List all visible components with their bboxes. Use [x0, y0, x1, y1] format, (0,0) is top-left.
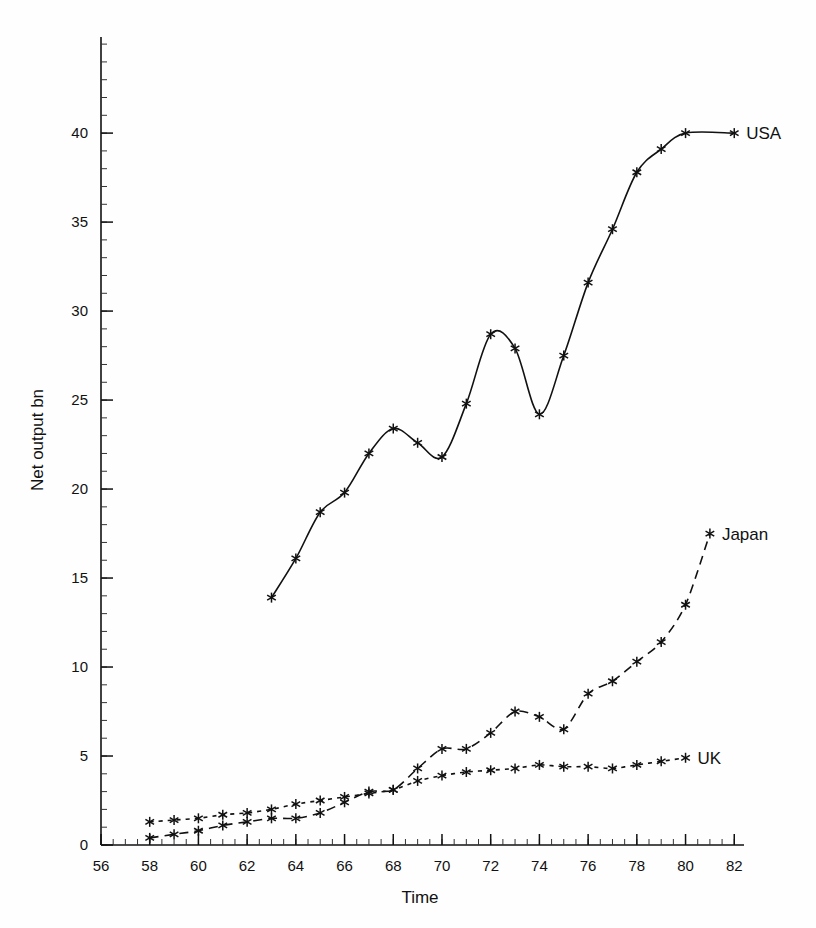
- y-axis-title: Net output bn: [28, 389, 47, 491]
- asterisk-marker: [511, 707, 520, 717]
- x-axis-title: Time: [401, 888, 438, 907]
- x-tick-label: 64: [288, 857, 305, 874]
- asterisk-marker: [316, 808, 325, 818]
- asterisk-marker: [218, 810, 227, 820]
- x-tick-label: 66: [336, 857, 353, 874]
- data-series: [150, 132, 735, 838]
- x-tick-label: 68: [385, 857, 402, 874]
- x-tick-label: 74: [531, 857, 548, 874]
- y-tick-label: 25: [71, 391, 88, 408]
- y-tick-label: 35: [71, 213, 88, 230]
- y-tick-label: 15: [71, 569, 88, 586]
- x-tick-label: 56: [93, 857, 110, 874]
- x-tick-label: 80: [677, 857, 694, 874]
- y-tick-label: 5: [80, 747, 88, 764]
- x-tick-label: 76: [580, 857, 597, 874]
- asterisk-marker: [706, 529, 715, 539]
- uk-label: UK: [698, 749, 722, 768]
- x-tick-label: 60: [190, 857, 207, 874]
- x-tick-label: 82: [726, 857, 743, 874]
- asterisk-marker: [584, 278, 593, 288]
- asterisk-marker: [681, 753, 690, 763]
- asterisk-marker: [413, 776, 422, 786]
- axes: [101, 37, 744, 845]
- asterisk-marker: [608, 224, 617, 234]
- series-labels: USAJapanUK: [698, 124, 782, 768]
- asterisk-marker: [584, 762, 593, 772]
- x-tick-label: 70: [434, 857, 451, 874]
- x-tick-label: 72: [482, 857, 499, 874]
- x-tick-label: 78: [628, 857, 645, 874]
- asterisk-marker: [608, 676, 617, 686]
- y-tick-label: 40: [71, 124, 88, 141]
- japan-label: Japan: [722, 525, 768, 544]
- asterisk-marker: [389, 785, 398, 795]
- x-tick-label: 62: [239, 857, 256, 874]
- x-tick-label: 58: [141, 857, 158, 874]
- y-tick-label: 30: [71, 302, 88, 319]
- axis-tick-labels: 5658606264666870727476788082051015202530…: [71, 124, 742, 874]
- asterisk-marker: [584, 689, 593, 699]
- asterisk-marker: [633, 657, 642, 667]
- line-chart-svg: 5658606264666870727476788082051015202530…: [0, 0, 816, 928]
- asterisk-marker: [511, 763, 520, 773]
- chart-figure: 5658606264666870727476788082051015202530…: [0, 0, 816, 928]
- asterisk-marker: [316, 796, 325, 806]
- data-markers: [145, 128, 738, 843]
- usa-label: USA: [746, 124, 782, 143]
- asterisk-marker: [462, 399, 471, 409]
- asterisk-marker: [486, 728, 495, 738]
- y-tick-label: 20: [71, 480, 88, 497]
- asterisk-marker: [681, 600, 690, 610]
- asterisk-marker: [559, 351, 568, 361]
- y-tick-label: 0: [80, 836, 88, 853]
- y-tick-label: 10: [71, 658, 88, 675]
- series-line-usa: [271, 132, 734, 598]
- asterisk-marker: [535, 712, 544, 722]
- asterisk-marker: [413, 438, 422, 448]
- series-line-japan: [150, 534, 710, 838]
- asterisk-marker: [292, 553, 301, 563]
